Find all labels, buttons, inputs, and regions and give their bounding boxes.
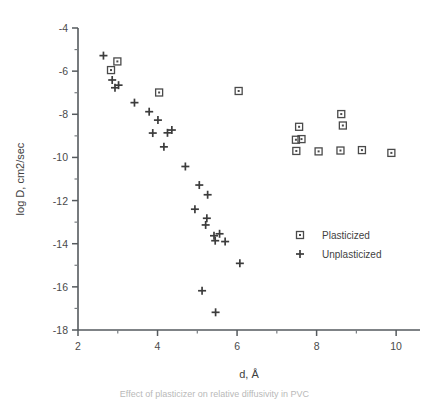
- y-tick-label: -18: [53, 324, 68, 336]
- figure-caption: Effect of plasticizer on relative diffus…: [0, 389, 429, 399]
- marker-plasticized-center: [361, 149, 363, 151]
- y-tick-label: -12: [53, 195, 68, 207]
- legend: PlasticizedUnplasticized: [296, 230, 381, 260]
- marker-plasticized-center: [339, 150, 341, 152]
- y-tick-label: -4: [59, 22, 68, 34]
- x-tick-label: 10: [390, 340, 402, 352]
- x-tick-label: 6: [234, 340, 240, 352]
- figure-container: -4-6-8-10-12-14-16-18246810 PlasticizedU…: [0, 0, 429, 399]
- x-tick-label: 8: [314, 340, 320, 352]
- y-tick-label: -14: [53, 238, 68, 250]
- x-tick-label: 2: [75, 340, 81, 352]
- y-tick-label: -10: [53, 151, 68, 163]
- y-tick-label: -6: [59, 65, 68, 77]
- y-axis-title: log D, cm2/sec: [14, 142, 26, 215]
- series-unplasticized: [99, 52, 243, 317]
- marker-plasticized-center: [390, 152, 392, 154]
- marker-plasticized-center: [298, 126, 300, 128]
- x-axis-title: d, Å: [239, 368, 259, 380]
- scatter-plot: -4-6-8-10-12-14-16-18246810 PlasticizedU…: [0, 0, 429, 399]
- marker-plasticized-center: [342, 125, 344, 127]
- marker-plasticized-center: [318, 150, 320, 152]
- marker-plasticized-center: [299, 234, 301, 236]
- tick-group: [72, 28, 396, 336]
- tick-label-group: -4-6-8-10-12-14-16-18246810: [53, 22, 402, 352]
- axes-group: [78, 28, 420, 330]
- marker-plasticized-center: [158, 91, 160, 93]
- series-plasticized: [108, 58, 395, 156]
- y-tick-label: -16: [53, 281, 68, 293]
- marker-plasticized-center: [110, 69, 112, 71]
- marker-plasticized-center: [238, 90, 240, 92]
- data-point-group: [99, 52, 394, 317]
- x-tick-label: 4: [155, 340, 161, 352]
- marker-plasticized-center: [340, 113, 342, 115]
- y-tick-label: -8: [59, 108, 68, 120]
- legend-label: Unplasticized: [322, 249, 381, 260]
- marker-plasticized-center: [300, 138, 302, 140]
- legend-label: Plasticized: [322, 230, 370, 241]
- marker-plasticized-center: [295, 150, 297, 152]
- marker-plasticized-center: [116, 60, 118, 62]
- marker-plasticized-center: [295, 139, 297, 141]
